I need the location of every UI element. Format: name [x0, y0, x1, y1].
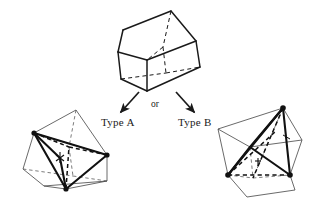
prism-top [118, 11, 200, 91]
type-a-centroid-mark [56, 152, 64, 163]
vertex-marker [63, 186, 68, 191]
label-or: or [151, 100, 159, 110]
arrow-to-type-a [121, 92, 140, 113]
label-type-a: Type A [101, 117, 135, 128]
prism-top-hidden-edges [121, 11, 200, 79]
label-type-b: Type B [178, 117, 212, 128]
prism-top-visible-edges [118, 11, 200, 91]
type-a-outer-shell [23, 110, 107, 189]
vertex-marker [31, 130, 36, 135]
polyhedron-type-a [23, 110, 110, 192]
type-a-hidden-shell-edges [23, 110, 107, 181]
vertex-marker [104, 152, 109, 157]
figure-canvas: Type A or Type B [0, 0, 312, 204]
type-a-interior-diagonals [34, 133, 107, 189]
polyhedron-type-b [218, 105, 302, 197]
arrow-to-type-b [176, 92, 195, 113]
type-b-outer-shell [218, 108, 302, 197]
vertex-marker [225, 172, 231, 178]
vertex-marker [287, 172, 293, 178]
vertex-marker [280, 105, 286, 111]
type-a-tetrahedron-edges [34, 133, 107, 189]
